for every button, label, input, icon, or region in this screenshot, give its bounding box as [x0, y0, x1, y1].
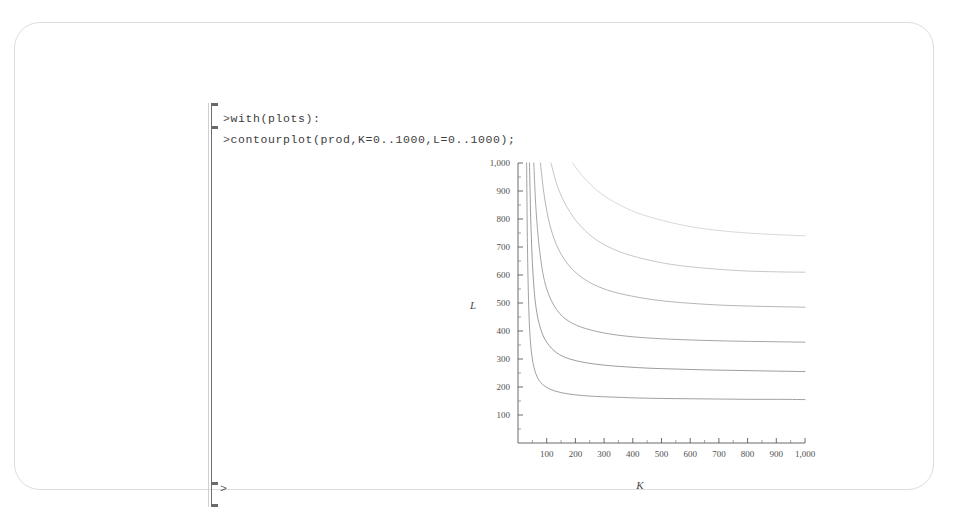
- input-code-1[interactable]: with(plots):: [231, 112, 321, 125]
- bracket-tick-second: [211, 126, 218, 129]
- contour-curve-1: [527, 163, 805, 400]
- y-tick-label-800: 800: [497, 214, 511, 224]
- plot-tick-labels-group: 1002003004005006007008009001,00010020030…: [490, 158, 816, 459]
- y-tick-label-600: 600: [497, 270, 511, 280]
- execution-group-bracket[interactable]: [208, 103, 217, 507]
- input-line-3[interactable]: >: [220, 482, 228, 495]
- x-tick-label-900: 900: [770, 449, 784, 459]
- input-line-1[interactable]: >with(plots):: [223, 112, 321, 125]
- y-tick-label-700: 700: [497, 242, 511, 252]
- contour-plot-output[interactable]: 1002003004005006007008009001,00010020030…: [455, 151, 825, 501]
- bracket-tick-third: [211, 482, 218, 485]
- x-tick-label-800: 800: [741, 449, 755, 459]
- x-tick-label-1000: 1,000: [795, 449, 816, 459]
- x-tick-label-600: 600: [683, 449, 697, 459]
- contour-curve-6: [573, 163, 805, 236]
- y-tick-label-100: 100: [497, 410, 511, 420]
- y-tick-label-200: 200: [497, 382, 511, 392]
- contour-plot-svg[interactable]: 1002003004005006007008009001,00010020030…: [455, 151, 825, 501]
- prompt-symbol-2: >: [223, 133, 231, 146]
- y-tick-label-300: 300: [497, 354, 511, 364]
- x-tick-label-300: 300: [597, 449, 611, 459]
- contour-curves-group: [527, 163, 805, 400]
- bracket-tick-bottom: [211, 504, 218, 507]
- x-axis-title: K: [635, 479, 644, 491]
- y-tick-label-900: 900: [497, 186, 511, 196]
- prompt-symbol-1: >: [223, 112, 231, 125]
- y-tick-label-1000: 1,000: [490, 158, 511, 168]
- bracket-tick-top: [211, 103, 218, 106]
- prompt-symbol-3: >: [220, 482, 228, 495]
- bracket-spine-light: [208, 103, 209, 507]
- y-axis-title: L: [469, 299, 476, 311]
- input-line-2[interactable]: >contourplot(prod,K=0..1000,L=0..1000);: [223, 133, 516, 146]
- contour-curve-4: [540, 163, 805, 307]
- x-tick-label-700: 700: [712, 449, 726, 459]
- input-code-2[interactable]: contourplot(prod,K=0..1000,L=0..1000);: [231, 133, 516, 146]
- y-tick-label-400: 400: [497, 326, 511, 336]
- x-tick-label-200: 200: [569, 449, 583, 459]
- bracket-spine: [211, 103, 212, 507]
- y-tick-label-500: 500: [497, 298, 511, 308]
- x-tick-label-400: 400: [626, 449, 640, 459]
- plot-axes-group: [518, 163, 805, 443]
- contour-curve-3: [534, 163, 805, 342]
- x-tick-label-500: 500: [655, 449, 669, 459]
- x-tick-label-100: 100: [540, 449, 554, 459]
- contour-curve-5: [551, 163, 805, 272]
- worksheet-page-frame: >with(plots): >contourplot(prod,K=0..100…: [14, 22, 934, 490]
